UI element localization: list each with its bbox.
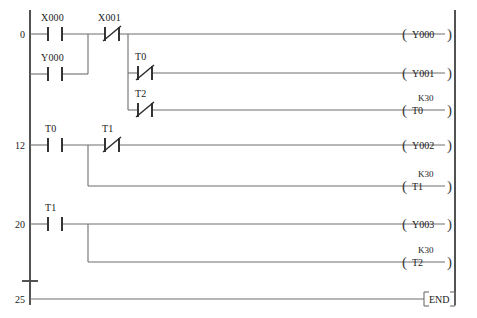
contact-y000[interactable]: Y000: [41, 52, 64, 81]
coil-close-paren: ): [447, 254, 452, 271]
coil-open-paren: (: [402, 65, 407, 82]
coil-y002-label: Y002: [412, 140, 434, 151]
contact-t0-nc[interactable]: T0: [135, 51, 154, 80]
step-number: 25: [15, 294, 25, 305]
step-number: 0: [20, 29, 25, 40]
step-number: 12: [15, 140, 25, 151]
coil-close-paren: ): [447, 178, 452, 195]
coil-t1[interactable]: K30 ( ) T1: [402, 169, 452, 195]
coil-t1-preset: K30: [418, 169, 434, 179]
coil-t0-preset: K30: [418, 93, 434, 103]
step-numbers: 0 12 20 25: [15, 29, 25, 305]
contact-x001-label: X001: [98, 12, 121, 23]
rung-12: [30, 145, 445, 186]
coil-close-paren: ): [447, 102, 452, 119]
coil-t2[interactable]: K30 ( ) T2: [402, 245, 452, 271]
coil-open-paren: (: [402, 102, 407, 119]
coil-y003-label: Y003: [412, 219, 434, 230]
coil-t1-label: T1: [412, 181, 423, 192]
contact-x001[interactable]: X001: [98, 12, 121, 41]
coil-open-paren: (: [402, 26, 407, 43]
contact-t1-nc[interactable]: T1: [102, 123, 121, 152]
coil-y000-label: Y000: [412, 29, 434, 40]
coil-open-paren: (: [402, 137, 407, 154]
step-number: 20: [15, 219, 25, 230]
coil-open-paren: (: [402, 178, 407, 195]
contact-t0-no-label: T0: [45, 123, 57, 134]
contact-t0-no[interactable]: T0: [45, 123, 62, 152]
contact-t1-no-label: T1: [45, 202, 57, 213]
coil-close-paren: ): [447, 216, 452, 233]
coil-close-paren: ): [447, 65, 452, 82]
contact-t1-nc-label: T1: [102, 123, 114, 134]
coil-t2-label: T2: [412, 257, 423, 268]
coil-close-paren: ): [447, 137, 452, 154]
end-instruction-label: END: [429, 294, 450, 305]
coil-t2-preset: K30: [418, 245, 434, 255]
contact-t2-nc[interactable]: T2: [135, 88, 154, 117]
coil-open-paren: (: [402, 216, 407, 233]
ladder-diagram-canvas: 0 12 20 25 X000 X001 Y000: [0, 0, 477, 318]
contact-y000-label: Y000: [41, 52, 64, 63]
end-instruction[interactable]: END: [424, 292, 455, 306]
rung-20: [30, 224, 445, 262]
coil-close-paren: ): [447, 26, 452, 43]
coil-t0-label: T0: [412, 105, 423, 116]
contact-t2-nc-label: T2: [135, 88, 147, 99]
contact-x000-label: X000: [41, 12, 64, 23]
coil-open-paren: (: [402, 254, 407, 271]
contact-t1-no[interactable]: T1: [45, 202, 62, 231]
contact-t0-nc-label: T0: [135, 51, 147, 62]
rung-0: [30, 34, 445, 110]
coil-y001-label: Y001: [412, 68, 434, 79]
contact-x000[interactable]: X000: [41, 12, 64, 41]
coil-t0[interactable]: K30 ( ) T0: [402, 93, 452, 119]
rung-25: [22, 281, 424, 299]
